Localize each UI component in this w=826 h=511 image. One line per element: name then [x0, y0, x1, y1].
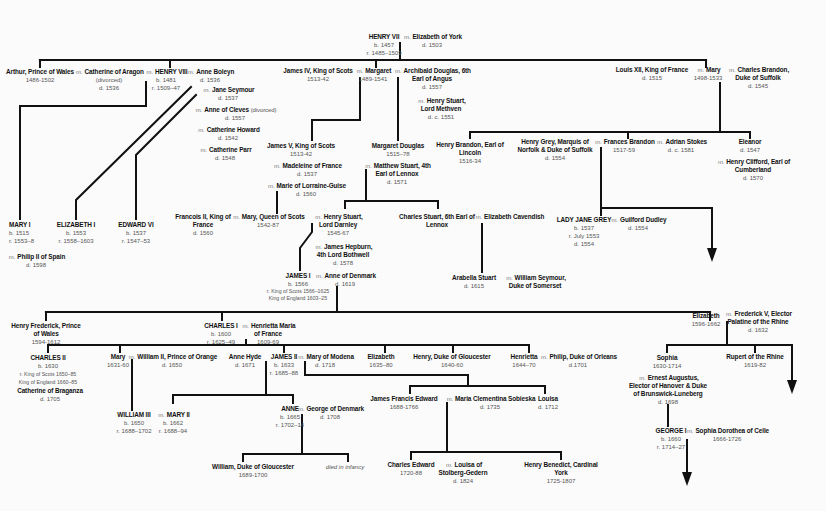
person-louisa-of-stolberg: m.Louisa of Stolberg-Gedern d. 1824 [431, 461, 495, 485]
person-george-of-denmark: m.George of Denmark d. 1708 [296, 405, 364, 421]
person-henry-benedict: Henry Benedict, Cardinal York 1725-1807 [523, 461, 599, 485]
person-catherine-howard: m.Catherine Howard d. 1542 [196, 126, 260, 142]
person-mary-ii: m.MARY II b. 1662 r. 1688–94 [156, 411, 190, 435]
person-charles-edward: Charles Edward 1720-88 [388, 461, 435, 477]
person-philip-duke-of-orleans: m.Philip, Duke of Orleans d.1701 [539, 353, 617, 369]
person-henry-duke-of-gloucester: Henry, Duke of Gloucester 1640-60 [413, 353, 490, 369]
person-henry-clifford: m.Henry Clifford, Earl of Cumberland d. … [715, 158, 791, 182]
person-frederick-v: m.Frederick V, Elector Palatine of the R… [720, 310, 796, 334]
person-name: HENRY VII [366, 33, 401, 41]
person-guilford-dudley: m.Guilford Dudley d. 1554 [610, 216, 667, 232]
person-elizabeth-of-bohemia: Elizabeth 1596-1662 [692, 312, 721, 328]
person-mary-i: MARY I b. 1515 r. 1553–8 [9, 221, 34, 245]
person-edward-vi: EDWARD VI b. 1537 r. 1547–53 [118, 221, 153, 245]
person-lord-darnley: m.Henry Stuart, Lord Darnley 1545-67 [306, 213, 370, 237]
person-charles-stuart-lennox: Charles Stuart, 6th Earl of Lennox [397, 213, 477, 229]
person-henrietta-maria: m.Henrietta Maria of France 1609-69 [238, 322, 298, 346]
person-rupert-of-the-rhine: Rupert of the Rhine 1619-82 [726, 353, 783, 369]
person-margaret-douglas: Margaret Douglas 1515–78 [372, 142, 424, 158]
person-charles-i: CHARLES I b. 1600 r. 1625–49 [204, 322, 238, 346]
person-henry-frederick: Henry Frederick, Prince of Wales 1594-16… [8, 322, 84, 346]
person-arabella-stuart: Arabella Stuart d. 1615 [452, 274, 496, 290]
person-henry-viii: m.HENRY VIII b. 1481 r. 1509–47 [145, 68, 188, 92]
person-catherine-of-aragon: m.Catherine of Aragon (divorced) d. 1536 [74, 68, 144, 92]
person-henry-vii: HENRY VII b. 1457 r. 1485–1509 [366, 33, 401, 57]
person-henry-brandon: Henry Brandon, Earl of Lincoln 1516-34 [436, 141, 504, 165]
family-tree-diagram: HENRY VII b. 1457 r. 1485–1509 m.Elizabe… [0, 0, 826, 511]
person-elizabeth-cavendish: m.Elizabeth Cavendish [474, 213, 545, 221]
died-in-infancy-note: died in infancy [326, 463, 364, 471]
person-arthur: Arthur, Prince of Wales 1486-1502 [6, 68, 74, 84]
person-james-ii: JAMES II b. 1633 r. 1685–88 [270, 353, 298, 377]
person-anne-hyde: Anne Hyde d. 1671 [229, 353, 261, 369]
person-sophia: Sophia 1630-1714 [653, 354, 682, 370]
person-william-seymour: m.William Seymour, Duke of Somerset [498, 274, 572, 290]
person-william-duke-of-gloucester: William, Duke of Gloucester 1689-1700 [212, 463, 294, 479]
person-lady-jane-grey: LADY JANE GREY b. 1537 r. July 1553 d. 1… [557, 216, 612, 248]
person-francois-ii: Francois II, King of France d. 1560 [172, 213, 234, 237]
person-lord-bothwell: m.James Hepburn, 4th Lord Bothwell d. 15… [311, 243, 375, 267]
person-louisa: Louisa d. 1712 [538, 395, 558, 411]
person-anne-boleyn: m.Anne Boleyn d. 1536 [186, 68, 234, 84]
person-sophia-dorothea: m.Sophia Dorothea of Celle 1666-1726 [685, 427, 769, 443]
marriage-symbol: m. [404, 34, 410, 40]
person-maria-clementina-sobieska: m.Maria Clementina Sobieska d. 1735 [445, 395, 536, 411]
person-mary-of-modena: m.Mary of Modena d. 1718 [296, 353, 354, 369]
person-louis-xii: Louis XII, King of France d. 1515 [616, 66, 688, 82]
person-mary-tudor: m.Mary 1498-1533 [694, 66, 723, 82]
person-margaret-tudor: m.Margaret 1489-1541 [355, 67, 392, 83]
person-madeleine-of-france: m.Madeleine of France d. 1537 [272, 162, 342, 178]
person-henry-stuart-methven: m.Henry Stuart, Lord Methven d. c. 1551 [409, 97, 473, 121]
person-elizabeth-of-york: m.Elizabeth of York d. 1503 [402, 33, 462, 49]
person-adrian-stokes: m.Adrian Stokes d. c. 1581 [655, 138, 707, 154]
person-james-francis-edward: James Francis Edward 1688-1766 [370, 395, 437, 411]
person-charles-ii: CHARLES II b. 1630 r. King of Scots 1650… [19, 354, 77, 386]
person-jane-seymour: m.Jane Seymour d. 1537 [202, 86, 255, 102]
person-anne-of-cleves: m.Anne of Cleves (divorced) d. 1557 [194, 106, 277, 122]
person-mary-queen-of-scots: m.Mary, Queen of Scots 1542-87 [231, 213, 304, 229]
person-eleanor: Eleanor d. 1547 [739, 138, 762, 154]
person-henry-grey: Henry Grey, Marquis of Norfolk & Duke of… [514, 138, 596, 162]
person-henrietta: Henrietta 1644–70 [511, 353, 538, 369]
person-ernest-augustus: m.Ernest Augustus, Elector of Hanover & … [626, 374, 710, 406]
person-archibald-douglas: m.Archibald Douglas, 6th Earl of Angus d… [392, 67, 472, 91]
person-marie-of-guise: m.Marie of Lorraine-Guise d. 1560 [266, 182, 346, 198]
person-elizabeth-i: ELIZABETH I b. 1553 r. 1558–1603 [57, 221, 95, 245]
person-james-iv: James IV, King of Scots 1513-42 [283, 67, 353, 83]
person-frances-brandon: m.Frances Brandon 1517-59 [593, 138, 655, 154]
person-william-ii-orange: m.William II, Prince of Orange d. 1650 [127, 353, 217, 369]
person-philip-ii: m.Philip II of Spain d. 1598 [7, 253, 65, 269]
person-mary-princess-royal: Mary 1631-60 [107, 353, 129, 369]
person-william-iii: WILLIAM III b. 1650 r. 1688–1702 [116, 411, 151, 435]
person-catherine-of-braganza: Catherine of Braganza d. 1705 [17, 387, 83, 403]
person-charles-brandon: m.Charles Brandon, Duke of Suffolk d. 15… [722, 66, 794, 90]
person-elizabeth-stuart: Elizabeth 1635–80 [367, 353, 394, 369]
person-matthew-stuart: m.Matthew Stuart, 4th Earl of Lennox d. … [361, 162, 433, 186]
person-anne-of-denmark: m.Anne of Denmark d. 1619 [314, 272, 376, 288]
person-james-v: James V, King of Scots 1513-42 [267, 142, 335, 158]
person-george-i: GEORGE I b. 1660 r. 1714–27 [656, 427, 687, 451]
person-catherine-parr: m.Catherine Parr d. 1548 [198, 146, 251, 162]
